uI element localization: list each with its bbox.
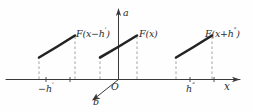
- curve-label-f-x-plus-h-dprime: F(x+h″): [205, 27, 240, 39]
- a-axis-label: a: [123, 8, 129, 18]
- curve-label-text-right: F(x+h: [205, 28, 234, 39]
- origin-label: O: [111, 82, 119, 92]
- x-tick-prime-right: ″: [192, 81, 195, 90]
- x-tick-label-minus-h-prime: −h′: [38, 82, 54, 94]
- figure-container: F(x−h′) F(x) F(x+h″) a b x O −h′ h″: [0, 0, 253, 112]
- x-tick-prime-left: ′: [52, 81, 54, 90]
- x-axis-label: x: [224, 81, 230, 92]
- curve-label-text-center: F(x: [139, 28, 154, 39]
- curve-label-tail-right: ): [236, 28, 240, 39]
- curve-label-tail-left: ): [106, 28, 110, 39]
- curve-label-f-x: F(x): [139, 27, 158, 39]
- curve-label-text-left: F(x−h: [76, 28, 105, 39]
- b-axis-label: b: [93, 97, 99, 107]
- curve-label-f-x-minus-h-prime: F(x−h′): [76, 27, 110, 39]
- x-tick-label-h-dprime: h″: [186, 82, 195, 94]
- a-axis: [116, 8, 121, 80]
- x-tick-text-left: −h: [38, 83, 52, 94]
- curve-label-tail-center: ): [154, 28, 158, 39]
- ramp-segments: [39, 36, 212, 58]
- segment-f-x-minus-h-prime: [39, 36, 75, 58]
